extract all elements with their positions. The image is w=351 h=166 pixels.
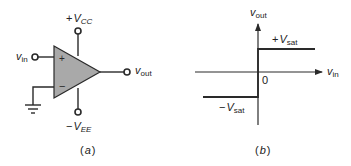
plus-supply-terminal-circle bbox=[75, 28, 81, 34]
noninverting-input-mark: + bbox=[59, 53, 65, 64]
origin-label: 0 bbox=[262, 74, 268, 86]
panel-a-opamp-schematic: +VCC −VEE + − vin bbox=[16, 12, 152, 156]
output-terminal-circle bbox=[124, 69, 130, 75]
panel-b-transfer-characteristic: vout vin 0 +Vsat −Vsat (b) bbox=[195, 6, 339, 156]
output-terminal: vout bbox=[100, 64, 152, 78]
inverting-input-mark: − bbox=[59, 80, 65, 92]
transfer-curve bbox=[203, 49, 315, 97]
input-terminal: vin bbox=[16, 50, 54, 64]
figure-canvas: +VCC −VEE + − vin bbox=[0, 0, 351, 166]
minus-vsat-label: −Vsat bbox=[219, 101, 245, 115]
vout-label: vout bbox=[135, 64, 152, 78]
input-terminal-circle bbox=[32, 54, 38, 60]
ground-icon bbox=[25, 105, 41, 113]
minus-supply-terminal: −VEE bbox=[66, 88, 92, 134]
ground-wire bbox=[33, 87, 54, 105]
panel-b-caption: (b) bbox=[255, 144, 270, 156]
plus-vcc-label: +VCC bbox=[66, 12, 93, 26]
vin-axis-label: vin bbox=[327, 65, 339, 79]
minus-supply-terminal-circle bbox=[75, 109, 81, 115]
ground-connection bbox=[25, 87, 54, 113]
plus-vsat-label: +Vsat bbox=[272, 33, 298, 47]
plus-supply-terminal: +VCC bbox=[66, 12, 93, 56]
minus-vee-label: −VEE bbox=[66, 120, 92, 134]
vin-label: vin bbox=[16, 50, 28, 64]
panel-a-caption: (a) bbox=[80, 144, 95, 156]
vout-axis-label: vout bbox=[250, 6, 267, 20]
